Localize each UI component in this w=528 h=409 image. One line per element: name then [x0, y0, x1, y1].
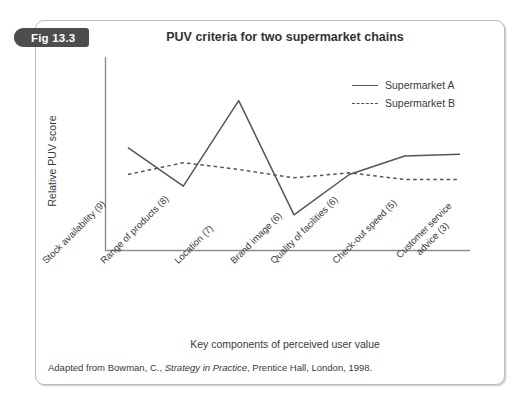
legend-line-solid-icon — [352, 85, 378, 86]
source-note-prefix: Adapted from Bowman, C., — [48, 362, 165, 373]
chart-title: PUV criteria for two supermarket chains — [120, 30, 450, 44]
legend-label-supermarket-b: Supermarket B — [385, 97, 455, 109]
legend-entry-supermarket-b: Supermarket B — [352, 96, 455, 110]
chart-legend: Supermarket A Supermarket B — [352, 78, 455, 114]
source-note-title: Strategy in Practice — [165, 362, 247, 373]
figure-frame — [35, 20, 505, 385]
source-note: Adapted from Bowman, C., Strategy in Pra… — [48, 362, 372, 373]
source-note-suffix: , Prentice Hall, London, 1998. — [247, 362, 372, 373]
x-axis-title: Key components of perceived user value — [160, 338, 410, 350]
figure-number-badge: Fig 13.3 — [14, 28, 89, 47]
y-axis-label: Relative PUV score — [46, 101, 58, 221]
legend-entry-supermarket-a: Supermarket A — [352, 78, 455, 92]
legend-label-supermarket-a: Supermarket A — [385, 79, 454, 91]
legend-line-dashed-icon — [352, 103, 378, 104]
